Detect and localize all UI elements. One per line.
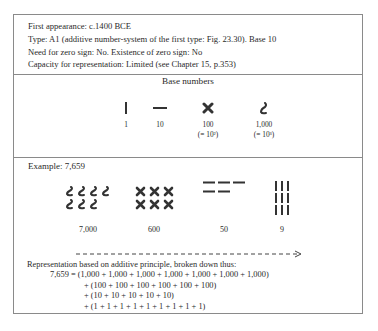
representation-line-units: + (1 + 1 + 1 + 1 + 1 + 1 + 1 + 1 + 1): [50, 302, 269, 312]
additive-representation: Representation based on additive princip…: [27, 260, 269, 312]
representation-line-thousands: 7,659 = (1,000 + 1,000 + 1,000 + 1,000 +…: [50, 270, 269, 280]
cross-icon: [188, 98, 228, 118]
hook-icon: [244, 98, 284, 118]
first-appearance: First appearance: c.1400 BCE: [28, 20, 276, 33]
representation-line-tens: + (10 + 10 + 10 + 10 + 10): [50, 291, 269, 301]
cross-icon-group: [124, 175, 184, 221]
example-title: Example: 7,659: [28, 161, 85, 171]
system-info-section: First appearance: c.1400 BCE Type: A1 (a…: [14, 15, 362, 75]
representation-intro: Representation based on additive princip…: [27, 260, 269, 270]
example-group-50: 50: [194, 175, 254, 234]
capacity-info: Capacity for representation: Limited (se…: [28, 58, 276, 71]
base-numbers-section: Base numbers 1 10 100 (= 10²) 1,000: [14, 74, 362, 158]
horizontal-stroke-icon-group: [194, 175, 254, 221]
hook-icon-group: [58, 175, 118, 221]
reading-direction-arrow-icon: [76, 250, 304, 258]
vertical-stroke-icon-group: [252, 175, 312, 221]
example-section: Example: 7,659 7,000: [14, 157, 362, 313]
horizontal-stroke-icon: [140, 98, 180, 118]
zero-sign-info: Need for zero sign: No. Existence of zer…: [28, 46, 276, 59]
base-number-10: 10: [140, 98, 180, 130]
system-type: Type: A1 (additive number-system of the …: [28, 33, 276, 46]
numeral-system-table: First appearance: c.1400 BCE Type: A1 (a…: [13, 14, 363, 314]
base-number-100: 100 (= 10²): [188, 98, 228, 140]
base-numbers-title: Base numbers: [14, 76, 362, 86]
base-number-1000: 1,000 (= 10³): [244, 98, 284, 140]
example-group-600: 600: [124, 175, 184, 234]
example-group-7000: 7,000: [58, 175, 118, 234]
example-group-9: 9: [252, 175, 312, 234]
representation-line-hundreds: + (100 + 100 + 100 + 100 + 100 + 100): [50, 281, 269, 291]
